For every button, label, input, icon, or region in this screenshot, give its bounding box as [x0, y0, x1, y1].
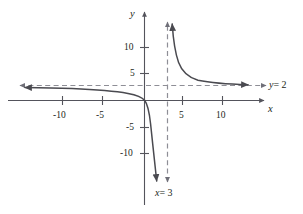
x-tick-label-10: 10: [216, 111, 226, 121]
y-tick-label-10: 10: [124, 43, 134, 53]
y-tick-label-5: 5: [130, 69, 135, 79]
y-axis-label: y: [130, 9, 135, 20]
graph-figure: -10 -5 5 10 10 5 -5 -10 y x y= 2 x= 3: [0, 0, 303, 214]
vertical-asymptote-equation: = 3: [159, 187, 172, 198]
x-tick-label--10: -10: [53, 111, 66, 121]
vertical-asymptote-label: x= 3: [155, 188, 173, 198]
coordinate-plane: [0, 0, 303, 214]
x-tick-label--5: -5: [96, 111, 104, 121]
curve-left-branch: [25, 88, 157, 182]
y-tick-label--10: -10: [120, 149, 133, 159]
horizontal-asymptote-equation: = 2: [273, 79, 286, 90]
x-tick-label-5: 5: [179, 111, 184, 121]
x-axis-label: x: [268, 104, 273, 115]
horizontal-asymptote-label: y= 2: [269, 80, 287, 90]
y-tick-label--5: -5: [126, 123, 134, 133]
curve-right-branch: [172, 24, 248, 85]
